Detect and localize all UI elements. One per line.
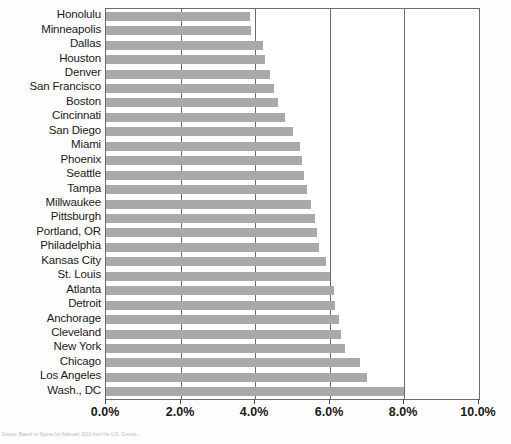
bar (106, 156, 302, 165)
x-tick-label: 0.0% (70, 405, 140, 419)
category-label: New York (0, 341, 101, 353)
bar (106, 344, 345, 353)
x-tick-label: 8.0% (368, 405, 438, 419)
x-tick-label: 10.0% (443, 405, 511, 419)
bar (106, 330, 341, 339)
bar (106, 286, 334, 295)
bar (106, 243, 319, 252)
x-tick-mark (254, 399, 255, 404)
category-label: Cincinnati (0, 110, 101, 122)
category-label: Dallas (0, 38, 101, 50)
bar (106, 84, 274, 93)
x-tick-mark (180, 399, 181, 404)
category-label: Pittsburgh (0, 211, 101, 223)
x-tick-mark (403, 399, 404, 404)
category-label: Chicago (0, 356, 101, 368)
category-label: Kansas City (0, 255, 101, 267)
category-label: Cleveland (0, 327, 101, 339)
plot-area (105, 8, 480, 400)
bar (106, 70, 270, 79)
bar (106, 113, 285, 122)
horizontal-bar-chart: HonoluluMinneapolisDallasHoustonDenverSa… (0, 0, 511, 444)
bar (106, 200, 311, 209)
bar (106, 185, 307, 194)
bar (106, 26, 251, 35)
category-label: Portland, OR (0, 226, 101, 238)
bar (106, 127, 293, 136)
category-label: Wash., DC (0, 385, 101, 397)
x-tick-label: 2.0% (145, 405, 215, 419)
bar (106, 257, 326, 266)
category-label: Denver (0, 67, 101, 79)
category-label: Boston (0, 96, 101, 108)
category-label: Anchorage (0, 313, 101, 325)
category-label: Philadelphia (0, 240, 101, 252)
bar (106, 272, 330, 281)
category-label: St. Louis (0, 269, 101, 281)
bar (106, 228, 317, 237)
x-tick-label: 6.0% (294, 405, 364, 419)
bar (106, 315, 339, 324)
bar (106, 12, 250, 21)
category-label: Los Angeles (0, 370, 101, 382)
x-tick-label: 4.0% (219, 405, 289, 419)
bar (106, 214, 315, 223)
bar (106, 98, 278, 107)
source-note: Source: Based on figures for February 20… (2, 432, 507, 438)
bar (106, 387, 404, 396)
category-label: Tampa (0, 183, 101, 195)
x-tick-mark (105, 399, 106, 404)
category-label: Millwaukee (0, 197, 101, 209)
category-label: San Diego (0, 125, 101, 137)
x-axis: 0.0%2.0%4.0%6.0%8.0%10.0% (105, 399, 480, 421)
category-label: Phoenix (0, 154, 101, 166)
category-label: Seattle (0, 168, 101, 180)
bar (106, 41, 263, 50)
category-label: San Francisco (0, 81, 101, 93)
category-label-column: HonoluluMinneapolisDallasHoustonDenverSa… (0, 8, 101, 398)
category-label: Atlanta (0, 284, 101, 296)
bar (106, 171, 304, 180)
bars-layer (106, 9, 479, 399)
x-tick-mark (329, 399, 330, 404)
x-tick-mark (478, 399, 479, 404)
bar (106, 358, 360, 367)
bar (106, 373, 367, 382)
category-label: Honolulu (0, 9, 101, 21)
bar (106, 55, 265, 64)
bar (106, 142, 300, 151)
category-label: Minneapolis (0, 24, 101, 36)
bar (106, 301, 335, 310)
category-label: Detroit (0, 298, 101, 310)
category-label: Miami (0, 139, 101, 151)
category-label: Houston (0, 53, 101, 65)
